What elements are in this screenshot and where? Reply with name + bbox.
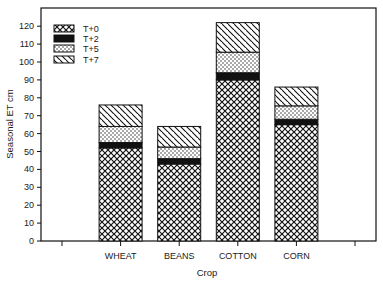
x-axis-title: Crop	[197, 267, 218, 278]
legend-swatch	[54, 35, 74, 42]
y-tick-label: 30	[24, 182, 34, 192]
legend-label: T+2	[83, 34, 99, 44]
bar-segment-tplus2	[158, 159, 201, 164]
legend-item: T+7	[54, 55, 99, 65]
legend-swatch	[54, 56, 74, 63]
bar-segment-tplus5	[99, 126, 142, 142]
bar-segment-tplus7	[216, 23, 259, 53]
x-axis: WHEATBEANSCOTTONCORN	[62, 241, 355, 261]
bar-stack-beans	[158, 126, 201, 241]
bar-segment-tplus5	[275, 106, 318, 119]
y-tick-label: 120	[19, 21, 34, 31]
bar-segment-tplus0	[216, 80, 259, 241]
bar-stack-cotton	[216, 23, 259, 241]
bars	[99, 23, 318, 241]
bar-segment-tplus2	[216, 73, 259, 80]
y-tick-label: 0	[29, 236, 34, 246]
legend-item: T+5	[54, 44, 99, 54]
legend-label: T+5	[83, 44, 99, 54]
legend-item: T+2	[54, 34, 99, 44]
bar-segment-tplus5	[216, 52, 259, 73]
bar-segment-tplus2	[99, 143, 142, 148]
x-tick-label: CORN	[283, 251, 310, 261]
bar-segment-tplus7	[158, 126, 201, 147]
bar-segment-tplus7	[99, 105, 142, 126]
bar-segment-tplus2	[275, 119, 318, 124]
x-tick-label: WHEAT	[105, 251, 137, 261]
y-tick-label: 10	[24, 218, 34, 228]
bar-stack-corn	[275, 87, 318, 241]
bar-segment-tplus0	[99, 148, 142, 241]
y-tick-label: 70	[24, 111, 34, 121]
y-tick-label: 60	[24, 129, 34, 139]
y-tick-label: 50	[24, 147, 34, 157]
y-tick-label: 40	[24, 164, 34, 174]
y-tick-label: 90	[24, 75, 34, 85]
legend: T+0T+2T+5T+7	[54, 24, 99, 65]
y-tick-label: 20	[24, 200, 34, 210]
bar-segment-tplus0	[158, 164, 201, 241]
bar-segment-tplus0	[275, 125, 318, 241]
y-tick-label: 110	[20, 39, 34, 49]
bar-segment-tplus7	[275, 87, 318, 106]
legend-swatch	[54, 45, 74, 52]
legend-swatch	[54, 25, 74, 32]
stacked-bar-chart: 0102030405060708090100110120 WHEATBEANSC…	[0, 0, 383, 290]
x-tick-label: COTTON	[219, 251, 257, 261]
legend-label: T+0	[83, 24, 99, 34]
y-tick-label: 100	[19, 57, 34, 67]
legend-label: T+7	[83, 55, 99, 65]
y-axis-title: Seasonal ET cm	[4, 89, 15, 159]
legend-item: T+0	[54, 24, 99, 34]
y-axis: 0102030405060708090100110120	[19, 21, 41, 246]
x-tick-label: BEANS	[164, 251, 195, 261]
bar-stack-wheat	[99, 105, 142, 241]
y-tick-label: 80	[24, 93, 34, 103]
bar-segment-tplus5	[158, 147, 201, 159]
